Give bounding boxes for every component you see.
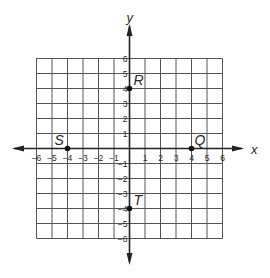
x-tick-label: −6 bbox=[32, 153, 42, 163]
y-tick-label: −6 bbox=[118, 234, 128, 244]
x-tick-label: 5 bbox=[205, 153, 210, 163]
arrow-up-icon bbox=[127, 24, 133, 36]
arrow-right-icon bbox=[232, 146, 244, 152]
x-tick-label: −3 bbox=[78, 153, 88, 163]
y-axis-label: y bbox=[126, 10, 135, 25]
point-label-r: R bbox=[134, 72, 144, 88]
arrow-down-icon bbox=[127, 253, 133, 265]
x-tick-label: −5 bbox=[47, 153, 57, 163]
y-tick-label: 3 bbox=[123, 99, 128, 109]
point-t bbox=[127, 206, 133, 212]
point-s bbox=[65, 146, 71, 152]
point-label-s: S bbox=[55, 132, 65, 148]
y-tick-label: 2 bbox=[123, 114, 128, 124]
y-tick-label: −5 bbox=[118, 219, 128, 229]
y-tick-label: 1 bbox=[123, 129, 128, 139]
coordinate-plane-figure: xy−6−5−4−3−2−1123456654321−1−2−3−4−5−6RS… bbox=[0, 0, 270, 278]
arrow-left-icon bbox=[12, 146, 24, 152]
y-tick-label: −3 bbox=[118, 189, 128, 199]
x-axis-label: x bbox=[250, 142, 258, 157]
x-tick-label: 4 bbox=[189, 153, 194, 163]
x-tick-label: 1 bbox=[143, 153, 148, 163]
x-tick-label: 3 bbox=[174, 153, 179, 163]
x-tick-label: 2 bbox=[158, 153, 163, 163]
x-tick-label: −2 bbox=[94, 153, 104, 163]
coordinate-plane: xy−6−5−4−3−2−1123456654321−1−2−3−4−5−6RS… bbox=[0, 0, 270, 278]
point-q bbox=[189, 146, 195, 152]
y-tick-label: 6 bbox=[123, 54, 128, 64]
point-label-q: Q bbox=[195, 132, 206, 148]
point-r bbox=[127, 86, 133, 92]
y-tick-label: 5 bbox=[123, 69, 128, 79]
y-tick-label: −4 bbox=[118, 204, 128, 214]
y-tick-label: −1 bbox=[118, 159, 128, 169]
x-tick-label: −4 bbox=[63, 153, 73, 163]
y-tick-label: −2 bbox=[118, 174, 128, 184]
x-tick-label: 6 bbox=[220, 153, 225, 163]
point-label-t: T bbox=[134, 192, 144, 208]
